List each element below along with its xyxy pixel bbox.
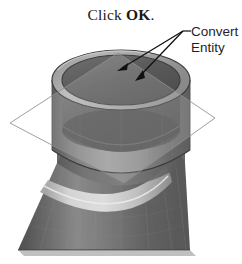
instruction-prefix: Click — [87, 6, 126, 23]
callout-label: Convert Entity — [191, 24, 238, 56]
instruction-text: Click OK. — [0, 6, 242, 24]
callout-label-line2: Entity — [191, 40, 238, 56]
instruction-suffix: . — [151, 6, 155, 23]
base-cut-face — [18, 250, 196, 256]
instruction-emphasis: OK — [126, 6, 151, 23]
callout-label-line1: Convert — [191, 24, 238, 40]
cad-figure: Click OK. Convert Entity — [0, 0, 242, 264]
